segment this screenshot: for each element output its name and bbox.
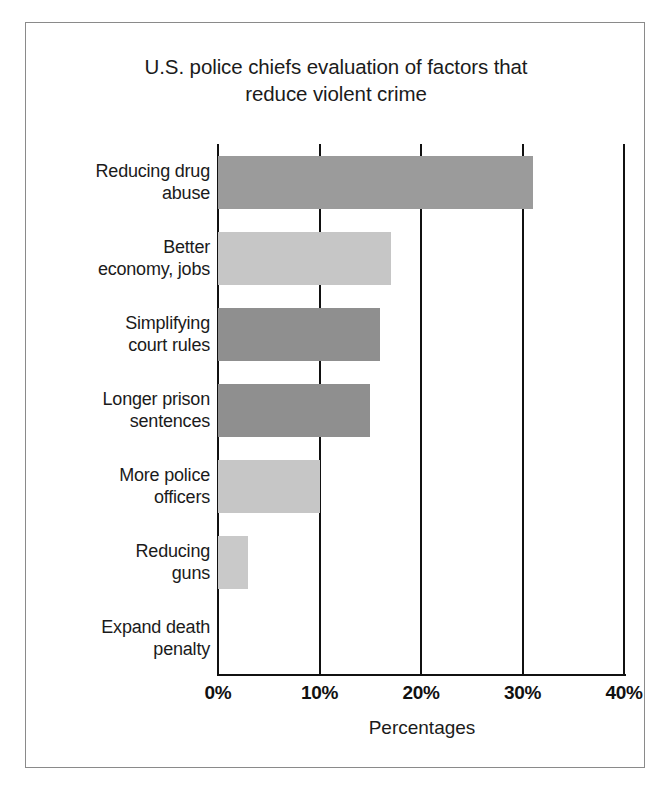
gridline-30pct <box>522 144 524 676</box>
category-label: Simplifying court rules <box>50 312 210 356</box>
category-label: Reducing drug abuse <box>50 160 210 204</box>
x-tick-label: 20% <box>381 682 461 704</box>
category-label: Reducing guns <box>50 540 210 584</box>
x-tick-label: 40% <box>584 682 663 704</box>
x-axis-title: Percentages <box>218 717 626 739</box>
category-label: More police officers <box>50 464 210 508</box>
category-axis-labels: Reducing drug abuseBetter economy, jobsS… <box>48 144 210 676</box>
bar <box>218 232 391 285</box>
x-tick-label: 0% <box>178 682 258 704</box>
chart-figure: U.S. police chiefs evaluation of factors… <box>0 0 663 789</box>
chart-title: U.S. police chiefs evaluation of factors… <box>86 53 586 107</box>
bar <box>218 384 370 437</box>
category-label: Longer prison sentences <box>50 388 210 432</box>
bar <box>218 156 533 209</box>
x-tick-label: 30% <box>483 682 563 704</box>
category-label: Better economy, jobs <box>50 236 210 280</box>
category-label: Expand death penalty <box>50 616 210 660</box>
gridline-20pct <box>420 144 422 676</box>
x-axis-line <box>218 674 626 676</box>
bar <box>218 460 320 513</box>
figure-frame: U.S. police chiefs evaluation of factors… <box>25 22 645 768</box>
bar <box>218 536 248 589</box>
x-tick-label: 10% <box>280 682 360 704</box>
bar <box>218 308 380 361</box>
gridline-40pct <box>623 144 625 676</box>
plot-area <box>218 144 624 676</box>
